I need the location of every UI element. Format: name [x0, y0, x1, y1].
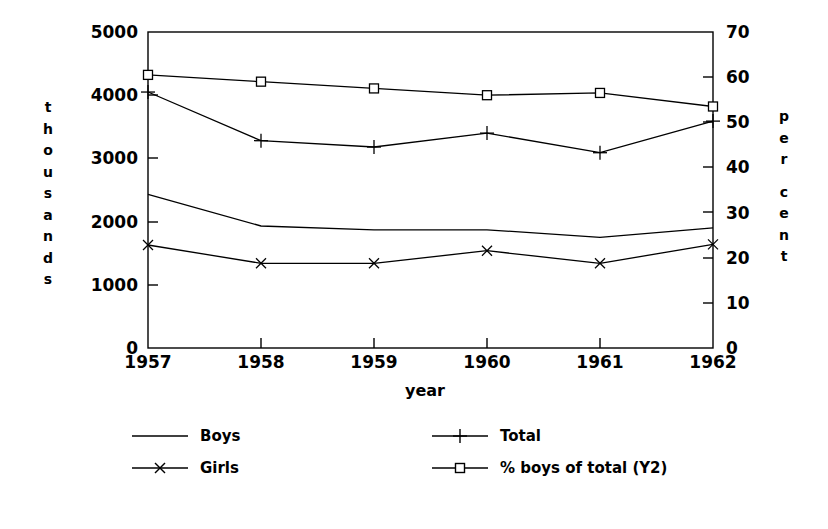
legend-label-total: Total [500, 427, 541, 445]
series-percent-boys [144, 70, 718, 111]
legend-swatch-square-icon [428, 457, 492, 479]
legend-label-boys: Boys [200, 427, 240, 445]
legend-swatch-cross-x-icon [128, 457, 192, 479]
legend-swatch-plus-icon [428, 425, 492, 447]
legend-label-percent-boys: % boys of total (Y2) [500, 459, 667, 477]
legend: Boys Girls Total % boys of total (Y [128, 425, 748, 495]
legend-label-girls: Girls [200, 459, 239, 477]
marker-cross-x-group [143, 239, 718, 268]
y-axis-left-ticks [148, 95, 158, 285]
legend-swatch-line-icon [128, 425, 192, 447]
series-boys [148, 194, 713, 237]
x-axis-ticks [261, 338, 600, 348]
chart-figure: t h o u s a n d s p e r c e n t year 500… [0, 0, 828, 529]
series-girls [143, 239, 718, 268]
marker-square-group [144, 70, 718, 111]
